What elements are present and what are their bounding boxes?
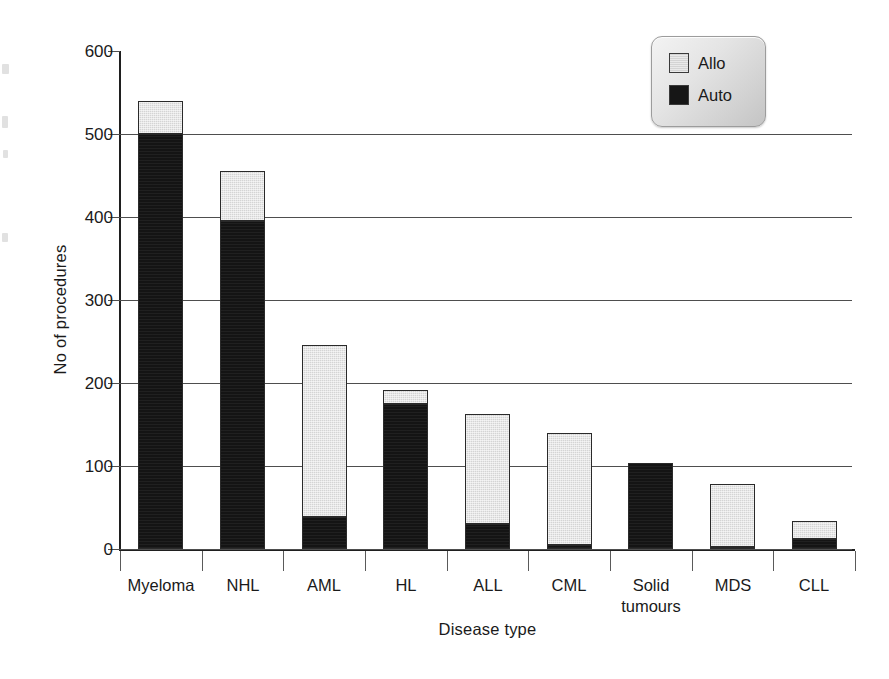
bar-aml [302, 345, 347, 549]
bar-myeloma [138, 101, 183, 549]
bar-segment-allo [547, 433, 592, 545]
bar-segment-auto [138, 134, 183, 549]
bar-segment-auto [465, 524, 510, 549]
category-label-aml: AML [283, 575, 365, 596]
category-label-mds: MDS [692, 575, 774, 596]
bar-chart-figure: No of procedures Disease type 0100200300… [0, 0, 889, 679]
category-label-all: ALL [447, 575, 529, 596]
bar-segment-auto [220, 221, 265, 549]
y-tick-label: 200 [85, 375, 113, 392]
gridline [120, 134, 852, 135]
bar-segment-allo [138, 101, 183, 134]
legend-entry-allo: Allo [669, 53, 726, 73]
x-tick-mark [283, 551, 284, 571]
bar-all [465, 414, 510, 549]
y-tick-label: 500 [85, 126, 113, 143]
category-label-nhl: NHL [202, 575, 284, 596]
y-tick-label: 600 [85, 43, 113, 60]
bar-segment-auto [710, 547, 755, 549]
category-label-cll: CLL [773, 575, 855, 596]
category-label-myeloma: Myeloma [120, 575, 202, 596]
bar-segment-allo [302, 345, 347, 518]
chart-legend: Allo Auto [651, 36, 766, 127]
x-tick-mark [447, 551, 448, 571]
category-label-hl: HL [365, 575, 447, 596]
y-tick-label: 300 [85, 292, 113, 309]
category-label-solid-tumours: Solid tumours [610, 575, 692, 617]
x-tick-mark [365, 551, 366, 571]
x-tick-mark [528, 551, 529, 571]
bar-segment-allo [383, 390, 428, 403]
x-tick-mark [855, 551, 856, 571]
legend-label-auto: Auto [698, 87, 732, 104]
x-axis-title: Disease type [120, 620, 855, 639]
bar-segment-auto [792, 539, 837, 549]
x-tick-mark [120, 551, 121, 571]
y-tick-label: 400 [85, 209, 113, 226]
bar-solid-tumours [628, 463, 673, 549]
bar-segment-allo [220, 171, 265, 221]
scan-artifact [2, 233, 8, 242]
y-tick-label: 0 [104, 541, 113, 558]
bar-cll [792, 521, 837, 549]
y-tick-label: 100 [85, 458, 113, 475]
bar-segment-auto [628, 463, 673, 549]
y-axis-title: No of procedures [51, 200, 70, 420]
scan-artifact [2, 116, 8, 128]
gridline [120, 549, 852, 550]
category-label-cml: CML [528, 575, 610, 596]
x-tick-mark [773, 551, 774, 571]
scan-artifact [2, 64, 9, 74]
bar-segment-allo [465, 414, 510, 524]
legend-swatch-allo-icon [669, 53, 689, 73]
bar-segment-auto [383, 404, 428, 549]
bar-cml [547, 433, 592, 549]
legend-swatch-auto-icon [669, 85, 689, 105]
legend-label-allo: Allo [698, 55, 726, 72]
bar-segment-auto [547, 545, 592, 549]
scan-artifact [3, 150, 8, 158]
x-tick-mark [610, 551, 611, 571]
bar-mds [710, 484, 755, 549]
bar-hl [383, 390, 428, 549]
legend-entry-auto: Auto [669, 85, 732, 105]
x-tick-mark [202, 551, 203, 571]
bar-nhl [220, 171, 265, 549]
bar-segment-auto [302, 517, 347, 549]
bar-segment-allo [792, 521, 837, 539]
bar-segment-allo [710, 484, 755, 546]
x-tick-mark [692, 551, 693, 571]
